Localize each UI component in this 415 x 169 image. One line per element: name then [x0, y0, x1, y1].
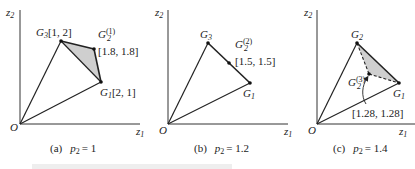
label-g1-b: G1 — [243, 87, 255, 101]
label-g1-c: G1 — [393, 87, 405, 101]
origin-label-b: O — [159, 124, 167, 136]
label-g23-sub-c: 2 — [357, 82, 361, 91]
origin-label-a: O — [10, 121, 18, 133]
point-g2-b — [227, 61, 231, 65]
edge-o-g3-a — [20, 41, 61, 124]
panel-b: z2 O G3 G(2) 2 [1.5, 1.5] G1 (b)p2= 1.2 — [154, 6, 288, 156]
label-g3-b: G3 — [200, 28, 212, 42]
x-axis-label-b: z1 — [283, 125, 292, 139]
edge-o-g3-b — [168, 43, 208, 124]
caption-c: (c)p2= 1.4 — [333, 142, 388, 156]
origin-label-c: O — [308, 124, 316, 136]
coord-g23-c: [1.28, 1.28] — [352, 107, 403, 119]
y-axis-label-b: z2 — [154, 6, 163, 20]
caption-a: (a)p2= 1 — [50, 142, 96, 156]
label-g2-c: G2 — [351, 28, 363, 42]
label-g3-a: G3[1, 2] — [36, 26, 72, 40]
label-g2-sub-b: 2 — [244, 44, 248, 53]
panel-c: z2 O G2 G(3) 2 [1.28, 1.28] G1 z1 (c)p2=… — [303, 6, 415, 156]
label-g1-a: G1[2, 1] — [100, 86, 136, 100]
y-axis-label-c: z2 — [303, 6, 312, 20]
point-g1-a — [99, 80, 103, 84]
coord-g2-a: [1.8, 1.8] — [98, 45, 138, 57]
caption-b: (b)p2= 1.2 — [194, 142, 249, 156]
point-g1-c — [397, 81, 401, 85]
point-g1-b — [248, 81, 252, 85]
point-g2-a — [92, 47, 96, 51]
label-g2-sub-a: 2 — [107, 34, 111, 43]
point-g3-a — [59, 39, 63, 43]
coord-g2-b: [1.5, 1.5] — [235, 55, 275, 67]
figure-canvas: z2 O G3[1, 2] G(1) 2 [1.8, 1.8] G1[2, 1]… — [0, 0, 415, 169]
cut-off-caption — [32, 164, 232, 169]
edge-o-g1-a — [20, 82, 101, 124]
panel-a: z2 O G3[1, 2] G(1) 2 [1.8, 1.8] G1[2, 1]… — [5, 6, 140, 156]
y-axis-label-a: z2 — [5, 6, 14, 20]
edge-o-g1-b — [168, 83, 250, 124]
x-axis-label-a: z1 — [135, 125, 144, 139]
x-axis-label-c: z1 — [398, 125, 407, 139]
point-g23-c — [367, 72, 371, 76]
